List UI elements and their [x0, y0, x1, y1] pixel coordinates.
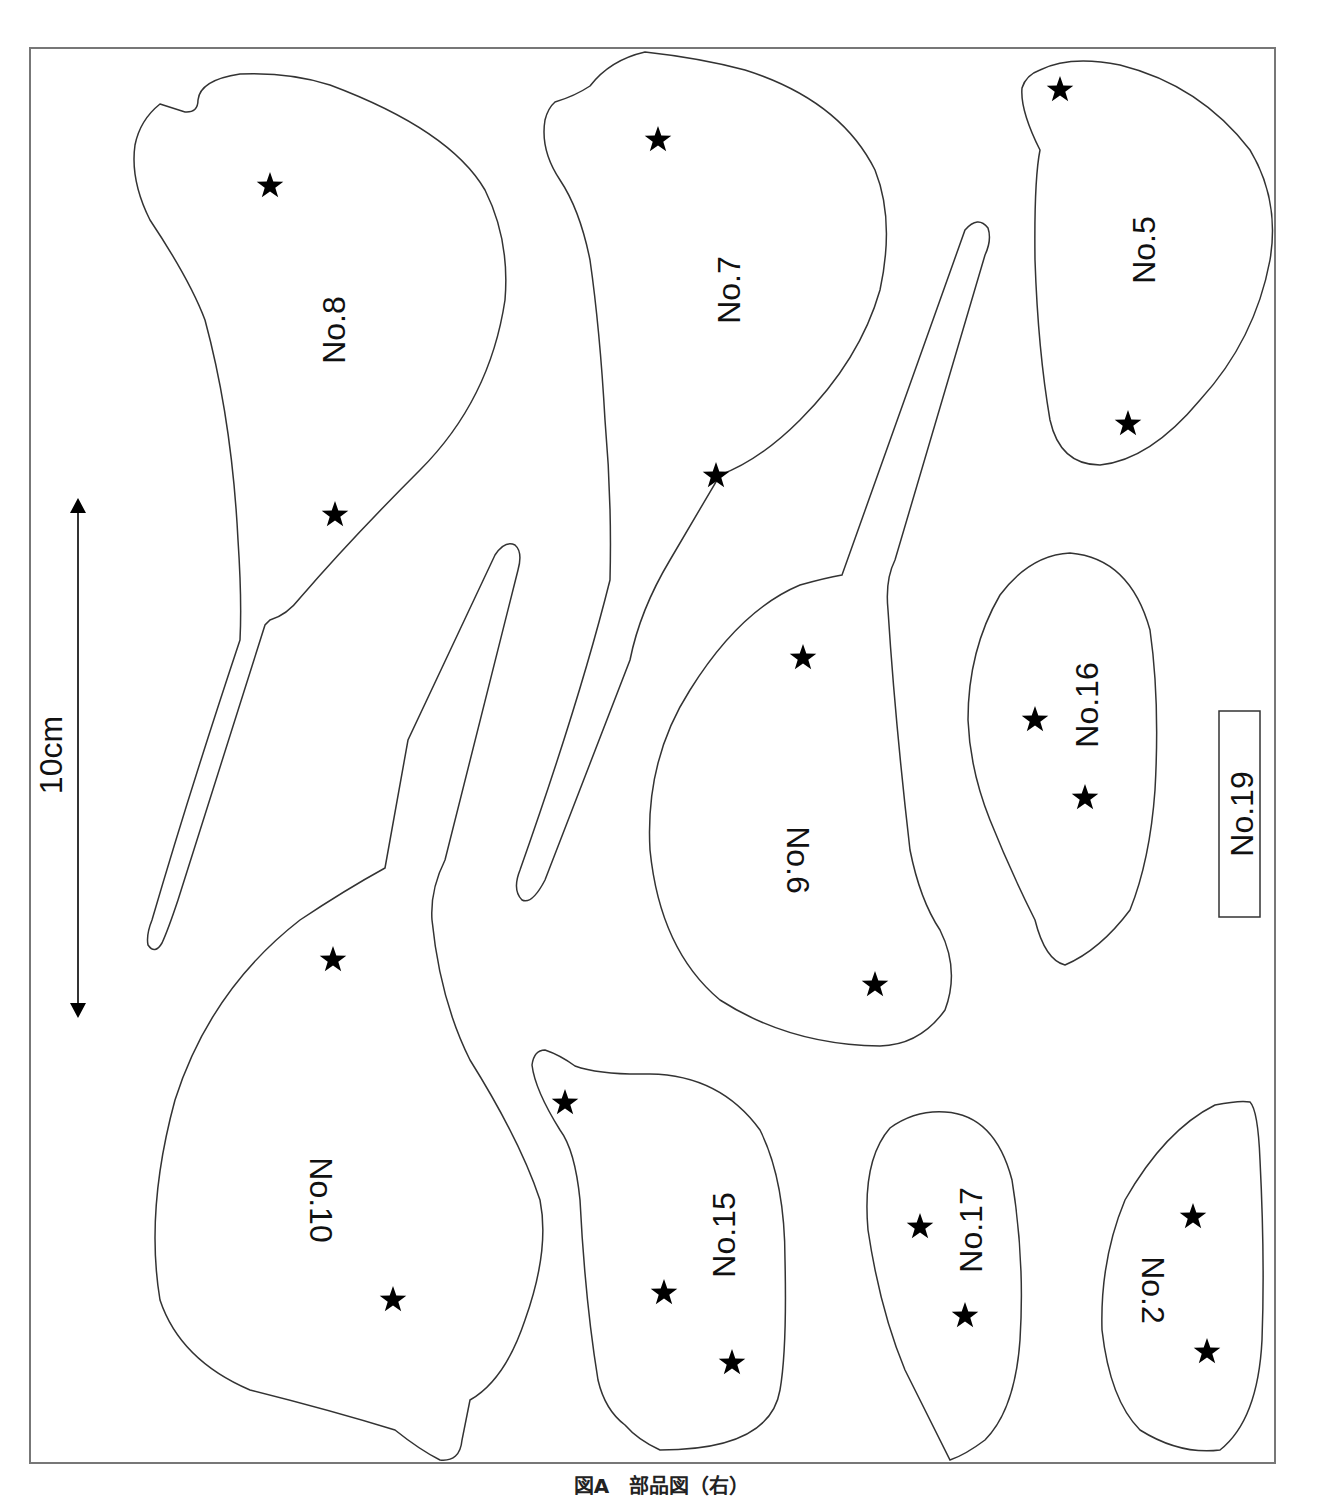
sheet-border [30, 48, 1275, 1463]
part-label: No.2 [1135, 1256, 1171, 1324]
arrow-down-icon [70, 1003, 86, 1018]
arrow-up-icon [70, 498, 86, 513]
part-label: No.19 [1224, 771, 1260, 856]
part-label: No.10 [303, 1157, 339, 1242]
part-no7: No.7 [516, 52, 886, 901]
part-label: No.16 [1069, 662, 1105, 747]
part-no17: No.17 [867, 1112, 1021, 1460]
part-label: No.7 [711, 256, 747, 324]
scale-bar: 10cm [33, 498, 86, 1018]
part-label: No.5 [1126, 216, 1162, 284]
part-no8: No.8 [134, 74, 506, 950]
part-label: No.8 [316, 296, 352, 364]
parts-diagram: 10cm No.8 No.10 No.7 No.6 No.5 [0, 0, 1323, 1505]
part-no2: No.2 [1102, 1101, 1263, 1450]
part-no16: No.16 [968, 553, 1157, 965]
part-no19: No.19 [1219, 711, 1260, 917]
part-label: No.6 [780, 826, 816, 894]
part-no10: No.10 [155, 544, 543, 1460]
figure-caption: 図A 部品図（右） [0, 1470, 1323, 1499]
scale-bar-label: 10cm [33, 716, 69, 794]
part-no6: No.6 [650, 222, 990, 1046]
part-no5: No.5 [1022, 61, 1273, 465]
part-label: No.15 [706, 1192, 742, 1277]
part-label: No.17 [953, 1187, 989, 1272]
part-no15: No.15 [532, 1050, 785, 1450]
